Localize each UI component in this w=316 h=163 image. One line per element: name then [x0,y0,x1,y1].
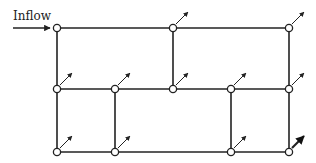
outflow-arrow-icon [234,136,246,148]
outflow-arrow-icon [118,73,130,85]
pipe-network-diagram [0,0,316,163]
junction-node [285,85,292,92]
junction-node [53,148,60,155]
junction-node [169,85,176,92]
junction-node [285,148,292,155]
junction-node [227,85,234,92]
outflow-arrow-icon [60,73,72,85]
outflow-arrow-icon [176,12,188,24]
junction-node [111,148,118,155]
junction-node [227,148,234,155]
junction-node [169,24,176,31]
outflow-arrow-icon [176,73,188,85]
outflow-arrow-icon [234,73,246,85]
outflow-arrow-icon [60,136,72,148]
outflow-arrow-icon [292,73,304,85]
junction-node [53,24,60,31]
outflow-arrows [60,12,304,148]
outflow-arrow-icon [292,136,304,148]
outflow-arrow-icon [292,12,304,24]
outflow-arrow-icon [118,136,130,148]
junction-node [53,85,60,92]
junction-node [285,24,292,31]
junction-node [111,85,118,92]
